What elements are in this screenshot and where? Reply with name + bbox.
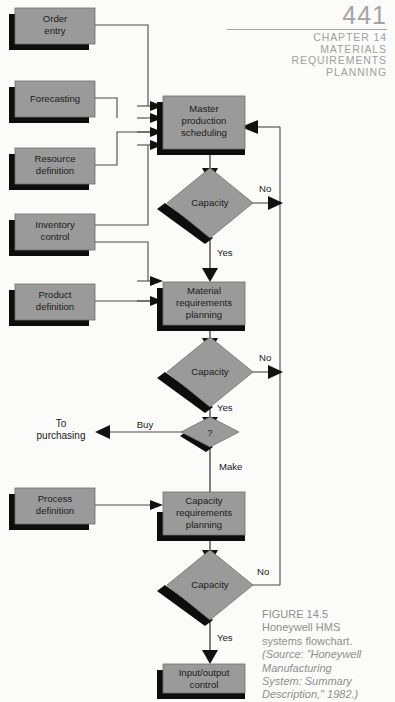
caption-source-line-3: System: Summary: [262, 675, 390, 688]
edge-label-no-1: No: [259, 183, 271, 194]
edge-label-yes-1: Yes: [217, 247, 233, 258]
capacity-2-label: Capacity: [191, 366, 229, 377]
process-definition-label-line-2: definition: [36, 505, 74, 516]
node-input-output-control[interactable]: Input/output control: [157, 664, 245, 699]
node-product-definition[interactable]: Product definition: [9, 284, 95, 326]
mrp-label-line-2: requirements: [176, 297, 232, 308]
mps-label-line-2: production: [182, 115, 227, 126]
edge-inventory-to-mrp: [95, 242, 148, 281]
node-process-definition[interactable]: Process definition: [9, 488, 95, 530]
edge-label-no-3: No: [257, 566, 269, 577]
make-or-buy-label: ?: [207, 427, 212, 438]
node-resource-definition[interactable]: Resource definition: [9, 148, 95, 190]
edge-forecasting: [95, 98, 117, 118]
order-entry-label-line-2: entry: [44, 25, 66, 36]
to-purchasing-line-1: To: [56, 418, 67, 429]
figure-caption: FIGURE 14.5 Honeywell HMS systems flowch…: [262, 608, 390, 702]
capacity-1-label: Capacity: [191, 197, 229, 208]
edge-order-entry: [95, 25, 148, 106]
mps-input-stubs: [137, 106, 150, 145]
mrp-input-stubs: [137, 281, 150, 301]
buy-branch-arrowhead: [95, 425, 110, 439]
node-master-production-scheduling[interactable]: Master production scheduling: [157, 96, 245, 155]
to-purchasing-line-2: purchasing: [37, 430, 86, 441]
node-capacity-2[interactable]: Capacity: [157, 337, 253, 413]
edge-resource-definition: [95, 132, 150, 165]
node-forecasting[interactable]: Forecasting: [9, 81, 95, 123]
resource-definition-label-line-2: definition: [36, 165, 74, 176]
product-definition-label-line-2: definition: [36, 301, 74, 312]
caption-title-line-2: systems flowchart.: [262, 635, 390, 648]
caption-source-line-1: (Source: "Honeywell: [262, 648, 390, 661]
crp-input-arrowhead: [150, 500, 163, 510]
input-output-control-label-line-2: control: [190, 679, 219, 690]
node-capacity-requirements-planning[interactable]: Capacity requirements planning: [157, 492, 245, 541]
caption-source-line-2: Manufacturing: [262, 662, 390, 675]
edge-label-make: Make: [219, 461, 242, 472]
mps-label-line-1: Master: [189, 103, 219, 114]
figure-page: 441 CHAPTER 14 MATERIALS REQUIREMENTS PL…: [0, 0, 395, 702]
node-capacity-1[interactable]: Capacity: [157, 168, 253, 244]
crp-label-line-3: planning: [186, 519, 222, 530]
node-make-or-buy[interactable]: ?: [180, 417, 239, 452]
product-definition-label-line-1: Product: [38, 289, 71, 300]
mrp-label-line-1: Material: [187, 285, 221, 296]
crp-label-line-1: Capacity: [185, 495, 223, 506]
node-material-requirements-planning[interactable]: Material requirements planning: [157, 282, 245, 331]
mrp-label-line-3: planning: [186, 309, 222, 320]
node-capacity-3[interactable]: Capacity: [157, 550, 253, 626]
node-order-entry[interactable]: Order entry: [9, 8, 95, 50]
no-branch-connectors: [247, 203, 280, 585]
capacity-3-label: Capacity: [191, 579, 229, 590]
edge-inventory-to-mps: [95, 145, 148, 225]
caption-title-line-1: Honeywell HMS: [262, 621, 390, 634]
inventory-control-label-line-2: control: [41, 231, 70, 242]
edge-label-buy: Buy: [137, 419, 154, 430]
mps-label-line-3: scheduling: [181, 127, 227, 138]
flowchart-diagram: Order entry Forecasting Resource definit…: [0, 0, 395, 702]
process-definition-label-line-1: Process: [38, 493, 73, 504]
order-entry-label-line-1: Order: [43, 13, 68, 24]
forecasting-label: Forecasting: [30, 93, 80, 104]
inventory-control-label-line-1: Inventory: [35, 219, 75, 230]
crp-label-line-2: requirements: [176, 507, 232, 518]
resource-definition-label-line-1: Resource: [34, 153, 75, 164]
input-output-control-label-line-1: Input/output: [179, 667, 230, 678]
node-inventory-control[interactable]: Inventory control: [9, 214, 95, 256]
caption-figure-number: FIGURE 14.5: [262, 608, 390, 621]
caption-source-line-4: Description," 1982.): [262, 688, 390, 701]
edge-label-no-2: No: [259, 352, 271, 363]
offpage-to-purchasing: To purchasing: [37, 418, 86, 441]
edge-label-yes-2: Yes: [217, 402, 233, 413]
edge-label-yes-3: Yes: [217, 632, 233, 643]
